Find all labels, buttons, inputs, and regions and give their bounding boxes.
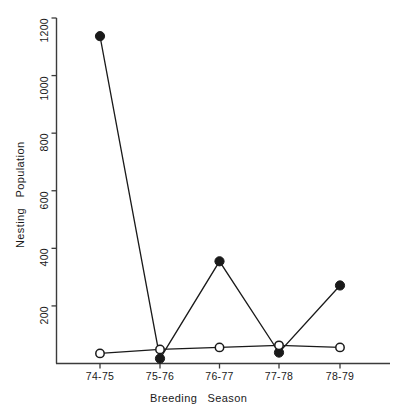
marker-filled-circle-series-78-79 — [335, 281, 344, 290]
marker-open-circle-series-74-75 — [96, 349, 104, 357]
x-tick-label-77-78: 77-78 — [249, 370, 309, 382]
y-axis-label: Nesting Population — [14, 48, 26, 248]
y-tick-label-400: 400 — [38, 248, 50, 294]
y-tick-label-600: 600 — [38, 191, 50, 237]
y-tick-label-1200: 1200 — [38, 18, 50, 64]
x-tick-label-74-75: 74-75 — [70, 370, 130, 382]
y-tick-label-800: 800 — [38, 133, 50, 179]
marker-open-circle-series-75-76 — [156, 345, 164, 353]
x-tick-marks — [100, 364, 340, 369]
x-tick-label-78-79: 78-79 — [310, 370, 370, 382]
marker-filled-circle-series-76-77 — [215, 257, 224, 266]
x-tick-label-76-77: 76-77 — [190, 370, 250, 382]
series-line-filled-circle-series — [100, 36, 340, 358]
y-tick-marks — [52, 18, 57, 306]
y-tick-label-200: 200 — [38, 306, 50, 352]
marker-filled-circle-series-75-76 — [155, 354, 164, 363]
marker-open-circle-series-76-77 — [215, 343, 223, 351]
marker-filled-circle-series-74-75 — [95, 32, 104, 41]
x-tick-label-75-76: 75-76 — [130, 370, 190, 382]
chart-figure: Nesting Population Breeding Season 20040… — [0, 0, 395, 412]
plot-area — [0, 0, 395, 412]
x-axis-label: Breeding Season — [150, 392, 247, 404]
marker-open-circle-series-77-78 — [275, 341, 283, 349]
series-markers — [95, 32, 344, 364]
y-tick-label-1000: 1000 — [38, 76, 50, 122]
series-lines — [100, 36, 340, 358]
marker-open-circle-series-78-79 — [336, 343, 344, 351]
